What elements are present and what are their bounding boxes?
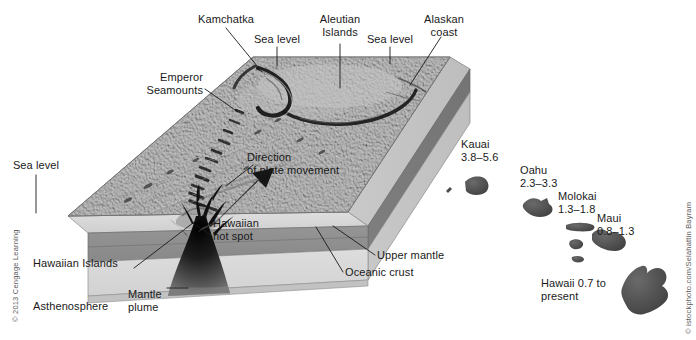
label-upper-mantle: Upper mantle <box>377 249 461 262</box>
label-emperor-seamounts: Emperor Seamounts <box>125 71 203 96</box>
label-alaskan-coast: Alaskan coast <box>416 13 472 38</box>
island-kahoolawe <box>572 256 584 262</box>
label-mantle-plume: Mantle plume <box>128 288 176 313</box>
label-sea-level-top-right: Sea level <box>359 33 421 46</box>
island-molokai <box>566 223 594 232</box>
label-hawaiian-islands: Hawaiian Islands <box>33 257 137 270</box>
label-island-kauai: Kauai 3.8–5.6 <box>461 138 531 163</box>
label-direction-of-plate-movement: Direction of plate movement <box>247 151 367 176</box>
label-kamchatka: Kamchatka <box>186 13 266 26</box>
credit-cengage: © 2013 Cengage Learning <box>11 229 20 322</box>
label-asthenosphere: Asthenosphere <box>33 300 133 313</box>
label-island-maui: Maui 0.8–1.3 <box>597 212 667 237</box>
hotspot-diagram-figure: Kamchatka Sea level Aleutian Islands Sea… <box>0 0 696 340</box>
label-sea-level-top-left: Sea level <box>246 33 308 46</box>
label-oceanic-crust: Oceanic crust <box>345 266 433 279</box>
label-island-oahu: Oahu 2.3–3.3 <box>520 164 590 189</box>
island-kauai <box>465 177 488 195</box>
island-lanai <box>569 239 583 249</box>
island-oahu <box>523 198 553 217</box>
label-island-hawaii: Hawaii 0.7 to present <box>541 277 637 302</box>
island-niihau <box>446 187 452 193</box>
credit-istockphoto: © istockphoto.com/Selahattin Bayram <box>684 202 693 334</box>
label-hawaiian-hot-spot: Hawaiian hot spot <box>213 217 273 242</box>
label-sea-level-left: Sea level <box>7 159 65 172</box>
